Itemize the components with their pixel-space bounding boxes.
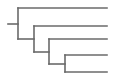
dendrogram xyxy=(0,0,116,78)
tree-branches xyxy=(8,8,107,72)
